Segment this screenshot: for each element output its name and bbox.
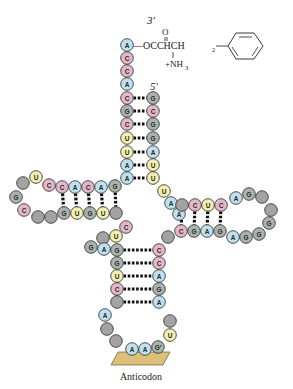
base-pair-bond (88, 193, 89, 206)
nucleotide: A (98, 243, 111, 256)
svg-text:—OCCHCH: —OCCHCH (132, 40, 185, 51)
svg-text:A: A (234, 195, 239, 202)
svg-text:U: U (115, 273, 120, 280)
nucleotide: G (188, 225, 201, 238)
nucleotide: A (121, 39, 134, 52)
nucleotide: C (121, 92, 134, 105)
svg-text:G: G (112, 183, 117, 190)
nucleotide (162, 231, 175, 244)
nucleotide: U (147, 159, 160, 172)
base-pair-bond (115, 192, 116, 206)
svg-text:U: U (125, 135, 130, 142)
nucleotide (256, 191, 269, 204)
nucleotide: A (95, 181, 108, 194)
nucleotide: C (147, 105, 160, 118)
svg-text:U: U (206, 202, 211, 209)
svg-text:A: A (157, 273, 162, 280)
svg-text:+NH: +NH (165, 59, 184, 69)
nucleotide: U (121, 146, 134, 159)
nucleotide: A (121, 172, 134, 185)
base-pair-bond (220, 211, 221, 224)
nucleotide: G (109, 180, 122, 193)
nucleotide: G (111, 257, 124, 270)
nucleotide: C (120, 221, 133, 234)
nucleotide: G (263, 217, 276, 230)
svg-text:C: C (151, 108, 156, 115)
svg-text:G: G (150, 95, 155, 102)
svg-text:U: U (151, 175, 156, 182)
svg-text:G: G (266, 220, 271, 227)
base-pair-bond (207, 211, 208, 224)
svg-text:G: G (114, 247, 119, 254)
svg-text:C: C (86, 184, 91, 191)
nucleotide: C (121, 118, 134, 131)
nucleotide: C (18, 204, 31, 217)
svg-text:C: C (22, 207, 27, 214)
svg-text:U: U (114, 233, 119, 240)
svg-text:U: U (162, 188, 167, 195)
svg-text:A: A (130, 346, 135, 353)
svg-text:G: G (87, 210, 92, 217)
svg-text:U: U (34, 174, 39, 181)
nucleotide: G′ (152, 341, 165, 354)
nucleotide: C (153, 244, 166, 257)
svg-text:U: U (168, 332, 173, 339)
nucleotide (164, 315, 177, 328)
svg-text:G: G (246, 191, 251, 198)
nucleotide: G (243, 188, 256, 201)
nucleotide (101, 323, 114, 336)
svg-text:G: G (150, 121, 155, 128)
nucleotide (110, 335, 123, 348)
svg-text:U: U (101, 210, 106, 217)
nucleotide (45, 211, 58, 224)
nucleotide: U (164, 329, 177, 342)
anticodon-label: Anticodon (120, 371, 162, 382)
svg-text:A: A (151, 149, 156, 156)
nucleotide-chain: ACCACGCUUAAGCGGAUUUAAGACACCUGCGUGUCUGAGG… (10, 39, 278, 356)
svg-text:G: G (88, 244, 93, 251)
nucleotide: C (121, 65, 134, 78)
nucleotide: U (147, 172, 160, 185)
phenylalanine-structure: O —OCCHCH 2 +NH 3 (132, 27, 263, 71)
nucleotide: A (139, 343, 152, 356)
svg-text:G: G (13, 194, 18, 201)
svg-text:C: C (125, 68, 130, 75)
svg-text:G: G (191, 228, 196, 235)
svg-text:A: A (125, 81, 130, 88)
nucleotide (32, 211, 45, 224)
svg-text:A: A (177, 211, 182, 218)
nucleotide: G (147, 92, 160, 105)
svg-text:G: G (61, 210, 66, 217)
nucleotide: A (201, 225, 214, 238)
svg-text:G: G (256, 231, 261, 238)
svg-text:A: A (205, 228, 210, 235)
svg-text:G: G (156, 286, 161, 293)
svg-text:G: G (217, 228, 222, 235)
svg-text:A: A (169, 200, 174, 207)
nucleotide: U (111, 270, 124, 283)
svg-text:C: C (60, 184, 65, 191)
svg-text:U: U (125, 149, 130, 156)
svg-text:C: C (193, 202, 198, 209)
nucleotide: A (230, 192, 243, 205)
nucleotide: U (121, 132, 134, 145)
nucleotide: C (189, 199, 202, 212)
svg-text:A: A (231, 234, 236, 241)
nucleotide: A (99, 309, 112, 322)
nucleotide: A (69, 181, 82, 194)
nucleotide (176, 199, 189, 212)
nucleotide: C (153, 257, 166, 270)
svg-text:G′: G′ (155, 344, 162, 351)
svg-text:G: G (124, 108, 129, 115)
svg-text:C: C (47, 182, 52, 189)
nucleotide: A (121, 78, 134, 91)
nucleotide: G (147, 132, 160, 145)
nucleotide: C (175, 225, 188, 238)
svg-text:A: A (99, 184, 104, 191)
svg-text:C: C (125, 95, 130, 102)
svg-text:A: A (102, 246, 107, 253)
svg-text:A: A (125, 162, 130, 169)
three-prime-label: 3′ (146, 14, 156, 26)
svg-text:C: C (179, 228, 184, 235)
svg-text:A: A (143, 346, 148, 353)
